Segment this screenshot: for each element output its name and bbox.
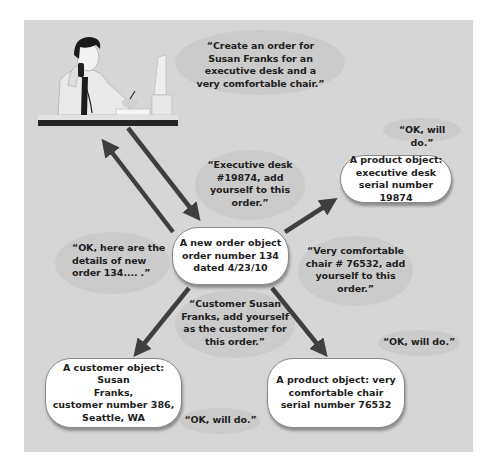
message-customer-ok: “OK, will do.” — [183, 414, 258, 427]
message-create-order: “Create an order for Susan Franks for an… — [188, 40, 333, 90]
message-desk-ok: “OK, will do.” — [386, 124, 458, 149]
message-order-details: “OK, here are the details of new order 1… — [72, 242, 167, 280]
node-customer-object: A customer object: Susan Franks, custome… — [45, 358, 182, 428]
arrow-order-to-actor — [107, 146, 173, 232]
arrow-actor-to-order — [128, 128, 195, 214]
node-desk-product-object: A product object: executive desk serial … — [340, 155, 452, 203]
node-chair-product-object: A product object: very comfortable chair… — [267, 358, 405, 428]
message-chair-ok: “OK, will do.” — [380, 336, 458, 349]
message-add-chair: “Very comfortable chair # 76532, add you… — [303, 245, 408, 295]
message-add-desk: “Executive desk #19874, add yourself to … — [200, 159, 300, 209]
node-order-object: A new order object order number 134 date… — [172, 227, 289, 285]
message-add-customer: “Customer Susan Franks, add yourself as … — [180, 298, 290, 348]
